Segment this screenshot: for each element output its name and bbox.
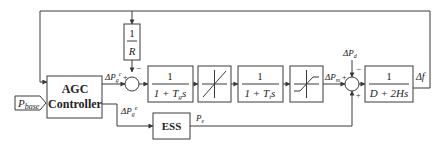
signal-dpm: ΔPm [324,72,341,83]
signal-df: Δf [415,71,426,82]
sum1-minus-sign: − [136,63,141,73]
svg-text:ESS: ESS [162,120,182,132]
svg-text:Controller: Controller [48,97,102,111]
droop-block: 1 R [124,24,140,60]
pbase-input: Pbase [15,96,46,111]
svg-text:1 + Tts: 1 + Tts [245,87,276,101]
saturation-block [290,66,323,102]
sum-junction-1 [125,77,139,91]
turbine-block: 1 1 + Tts [238,66,283,102]
sum-junction-2 [345,77,359,91]
svg-text:1: 1 [167,70,173,82]
svg-text:1 + Tgs: 1 + Tgs [154,87,186,101]
svg-text:D + 2Hs: D + 2Hs [369,87,409,99]
signal-dpd: ΔPd [342,48,358,59]
svg-text:1: 1 [386,70,392,82]
sum2-minus-sign: − [356,64,361,74]
ess-block: ESS [153,113,190,139]
svg-text:R: R [128,45,136,57]
rate-limiter-block [198,66,231,102]
svg-text:1: 1 [257,70,263,82]
signal-dpg-c: ΔPgc [104,71,122,83]
signal-dpg-e: ΔPge [120,105,138,117]
sum2-plus-bottom: + [356,91,361,100]
system-block: 1 D + 2Hs [365,66,413,102]
agc-controller-block: AGC Controller [47,76,103,118]
governor-block: 1 1 + Tgs [148,66,193,102]
svg-text:AGC: AGC [62,82,89,96]
signal-pe: Pe [195,113,205,124]
agc-block-diagram: 1 R AGC Controller Pbase ΔPgc + − 1 1 + … [0,0,443,147]
svg-text:1: 1 [129,27,135,39]
